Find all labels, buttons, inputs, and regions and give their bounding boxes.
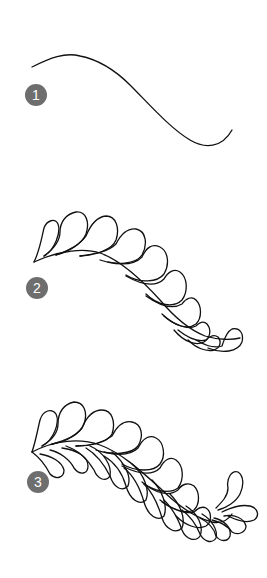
step-3: 3 (0, 0, 267, 578)
full-feather-icon (0, 0, 267, 578)
